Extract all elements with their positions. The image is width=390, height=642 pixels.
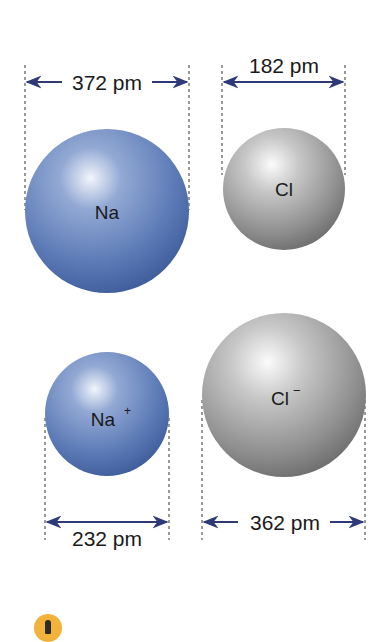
na-atom-label: Na: [95, 202, 120, 223]
na-ion-charge: +: [124, 404, 131, 418]
na-ion-group: 232 pm Na +: [45, 352, 169, 550]
cl-atom-label: Cl: [275, 179, 293, 200]
warning-icon: [34, 614, 62, 642]
na-ion-diameter-label: 232 pm: [72, 527, 142, 550]
na-diameter-label: 372 pm: [72, 71, 142, 94]
cl-diameter-label: 182 pm: [249, 54, 319, 77]
cl-ion-diameter-label: 362 pm: [250, 511, 320, 534]
na-atom-group: 372 pm Na: [25, 65, 189, 293]
cl-ion-charge: −: [293, 383, 301, 398]
cl-ion-label: Cl: [271, 388, 289, 409]
cl-ion-group: 362 pm Cl −: [202, 313, 366, 540]
na-ion-label: Na: [91, 409, 116, 430]
cl-atom-group: 182 pm Cl: [222, 54, 345, 250]
